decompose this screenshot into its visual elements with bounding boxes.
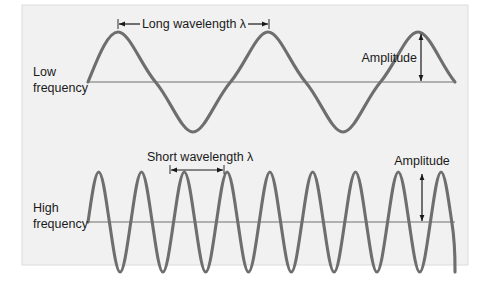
diagram-canvas: Low frequency High frequency Long wavele… (0, 0, 490, 285)
amplitude-bottom-label: Amplitude (394, 154, 450, 168)
low-frequency-label-line2: frequency (33, 81, 89, 95)
figure-panel (22, 5, 468, 265)
high-frequency-label-line2: frequency (33, 217, 89, 231)
amplitude-top-label: Amplitude (361, 51, 417, 65)
high-frequency-label-line1: High (33, 201, 59, 215)
short-wavelength-label: Short wavelength λ (147, 150, 254, 164)
wave-frequency-diagram: Low frequency High frequency Long wavele… (0, 0, 490, 285)
low-frequency-label-line1: Low (33, 65, 57, 79)
long-wavelength-label: Long wavelength λ (142, 17, 247, 31)
